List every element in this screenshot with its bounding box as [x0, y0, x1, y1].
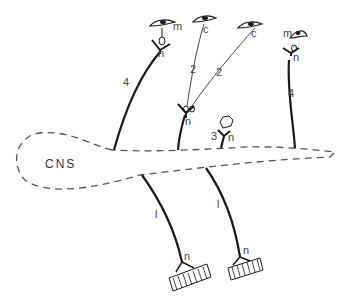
pathway-center-2: c c 2 2 n — [178, 16, 262, 150]
svg-text:l: l — [217, 198, 219, 210]
svg-text:c: c — [203, 23, 209, 35]
pathway-small-3: 3 n — [211, 116, 234, 148]
svg-text:n: n — [184, 250, 190, 262]
svg-text:l: l — [155, 208, 157, 220]
svg-text:m: m — [173, 20, 182, 32]
svg-text:n: n — [293, 51, 299, 63]
svg-text:2: 2 — [216, 66, 222, 78]
svg-text:m: m — [283, 27, 292, 39]
muscle-icon-right — [228, 258, 263, 280]
svg-text:3: 3 — [211, 130, 217, 142]
muscle-icon-left — [169, 264, 211, 291]
pathway-left-4: m n 4 — [114, 20, 182, 150]
svg-text:n: n — [158, 47, 164, 59]
svg-text:4: 4 — [123, 76, 129, 88]
svg-text:n: n — [243, 244, 249, 256]
cns-label: CNS — [45, 157, 76, 171]
svg-text:4: 4 — [288, 87, 294, 99]
pathway-motor-right: l n — [206, 168, 263, 280]
pathway-right-4: m n 4 — [283, 27, 307, 148]
svg-text:n: n — [185, 115, 191, 127]
diagram-canvas: CNS m n 4 c c 2 2 n 3 n — [0, 0, 350, 304]
pathway-motor-left: l n — [142, 175, 211, 291]
svg-text:n: n — [228, 131, 234, 143]
svg-text:2: 2 — [190, 63, 196, 75]
nervous-system-diagram: CNS m n 4 c c 2 2 n 3 n — [0, 0, 350, 304]
svg-text:c: c — [251, 27, 257, 39]
receptor-icon — [220, 116, 233, 128]
